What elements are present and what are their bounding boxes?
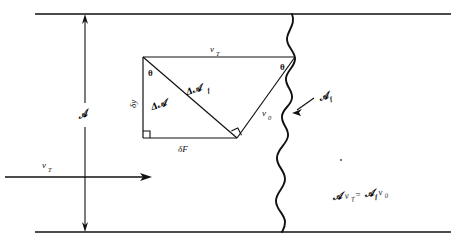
equation-velocity-rhs-subscript: 0 <box>384 192 389 199</box>
continuity-equation: 𝒜 v T = 𝒜 f v 0 <box>331 185 389 204</box>
delta-flame-area-text: Δ𝒜 <box>184 82 206 98</box>
inlet-velocity-subscript: T <box>48 166 52 173</box>
equation-velocity-lhs-subscript: T <box>351 195 356 202</box>
top-velocity-subscript: T <box>216 50 220 57</box>
equation-velocity-lhs: v <box>344 190 349 200</box>
burning-velocity-symbol: v <box>262 108 266 118</box>
burning-velocity-leg <box>237 57 295 138</box>
inlet-velocity-label: v T <box>42 160 52 173</box>
flame-area-callout-line <box>297 98 314 110</box>
delta-F-label: δF <box>178 144 188 154</box>
top-velocity-symbol: v <box>210 44 214 54</box>
theta-right-label: θ <box>280 62 285 72</box>
flame-area-callout <box>292 98 314 116</box>
delta-flame-area-label: Δ𝒜 f <box>184 80 211 99</box>
scan-speck <box>340 159 342 161</box>
flame-area-subscript: f <box>329 95 334 103</box>
duct-area-dimension <box>82 14 88 232</box>
triangle-hypotenuse <box>143 57 237 138</box>
figure-canvas: 𝒜 v T v T θ θ δy δF <box>0 0 451 245</box>
duct-area-label-text: 𝒜 <box>75 106 92 121</box>
equation-velocity-rhs: v <box>378 187 383 197</box>
inlet-flow-arrow <box>5 173 152 181</box>
flame-triangle-construction <box>143 57 295 138</box>
theta-left-label: θ <box>148 68 153 78</box>
inlet-velocity-symbol: v <box>42 160 46 170</box>
delta-flame-area-subscript: f <box>207 86 212 94</box>
delta-area-text: Δ𝒜 <box>149 97 171 113</box>
duct-walls <box>35 14 451 232</box>
delta-y-text: δy <box>128 100 138 108</box>
top-velocity-label: v T <box>210 44 220 57</box>
delta-area-label: Δ𝒜 <box>149 97 171 113</box>
equation-equals-sign: = <box>355 189 361 199</box>
duct-area-label: 𝒜 <box>75 106 92 121</box>
flame-front-wavy-line <box>276 14 295 232</box>
burning-velocity-subscript: 0 <box>268 114 272 121</box>
flame-area-label: 𝒜 f <box>317 89 334 105</box>
delta-y-label: δy <box>128 100 138 108</box>
burning-velocity-label: v 0 <box>262 108 272 121</box>
right-angle-mark-bottom-left <box>143 131 150 138</box>
flame-area-callout-arrowhead <box>292 109 302 116</box>
